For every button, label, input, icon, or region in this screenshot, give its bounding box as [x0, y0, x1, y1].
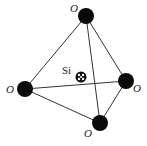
edge-left-right: [25, 81, 126, 89]
sio4-tetrahedron-diagram: Si OOOO: [0, 0, 147, 146]
diagram-canvas: Si OOOO: [0, 0, 147, 146]
edge-top-right: [86, 16, 126, 81]
edge-top-bottom: [86, 16, 100, 123]
oxygen-atoms: OOOO: [6, 2, 141, 139]
silicon-dot-icon: [82, 78, 84, 80]
silicon-dot-icon: [78, 74, 80, 76]
silicon-atom: Si: [62, 64, 87, 83]
oxygen-atom-left-icon: [17, 81, 33, 97]
edge-left-bottom: [25, 89, 100, 123]
silicon-dot-icon: [82, 74, 84, 76]
oxygen-atom-right-icon: [118, 73, 134, 89]
oxygen-label-bottom: O: [84, 127, 92, 139]
oxygen-atom-bottom-icon: [92, 115, 108, 131]
oxygen-label-top: O: [70, 2, 78, 14]
silicon-label: Si: [62, 64, 71, 76]
silicon-dot-icon: [80, 76, 82, 78]
oxygen-label-left: O: [6, 83, 14, 95]
oxygen-label-right: O: [133, 82, 141, 94]
tetrahedron-edges: [25, 16, 126, 123]
oxygen-atom-top-icon: [78, 8, 94, 24]
silicon-dot-icon: [78, 78, 80, 80]
